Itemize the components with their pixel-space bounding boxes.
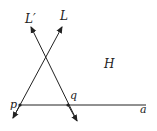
label-H: H (103, 57, 115, 71)
label-q: q (70, 89, 77, 102)
label-L: L (59, 9, 68, 23)
line-L-prime-lower (68, 105, 77, 121)
point-q-dot (66, 103, 69, 106)
label-L-prime: L′ (24, 12, 36, 26)
label-p: p (10, 98, 17, 111)
label-a: a (140, 103, 147, 116)
diagram: L′ L H p q a (0, 0, 157, 131)
point-p-dot (18, 103, 21, 106)
